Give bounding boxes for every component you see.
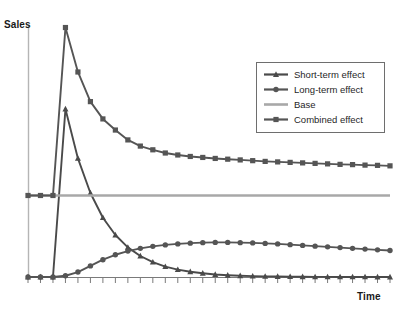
data-point-marker [262, 241, 267, 246]
data-point-marker [275, 159, 280, 164]
data-point-marker [238, 240, 243, 245]
data-point-marker [125, 248, 130, 253]
data-point-marker [138, 246, 143, 251]
legend-item[interactable]: Short-term effect [262, 67, 379, 82]
data-point-marker [63, 273, 68, 278]
data-point-marker [387, 163, 392, 168]
data-point-marker [325, 244, 330, 249]
data-point-marker [337, 245, 342, 250]
data-point-marker [150, 147, 155, 152]
legend-marker-short-term-effect [262, 67, 290, 82]
data-point-marker [75, 69, 80, 74]
legend-label: Base [290, 97, 316, 112]
data-point-marker [113, 252, 118, 257]
data-point-marker [62, 106, 68, 112]
data-point-marker [325, 161, 330, 166]
data-point-marker [113, 127, 118, 132]
data-point-marker [150, 244, 155, 249]
series-line [28, 242, 390, 277]
legend-item[interactable]: Long-term effect [262, 82, 379, 97]
legend-key-glyph [262, 82, 290, 97]
data-point-marker [50, 274, 55, 279]
data-point-marker [387, 248, 392, 253]
data-point-marker [100, 116, 105, 121]
data-point-marker [125, 137, 130, 142]
series-line [28, 109, 390, 277]
legend-label: Long-term effect [290, 82, 363, 97]
data-point-marker [313, 161, 318, 166]
data-point-marker [250, 158, 255, 163]
legend-label: Combined effect [290, 112, 363, 127]
data-point-marker [213, 240, 218, 245]
data-point-marker [312, 243, 317, 248]
legend-label: Short-term effect [290, 67, 365, 82]
data-point-marker [188, 240, 193, 245]
data-point-marker [350, 162, 355, 167]
data-point-marker [38, 193, 43, 198]
legend-marker-base [262, 97, 290, 112]
y-axis-title: Sales [4, 19, 31, 30]
data-point-marker [300, 243, 305, 248]
data-point-marker [25, 193, 30, 198]
sales-effects-line-chart [0, 0, 398, 313]
data-point-marker [138, 143, 143, 148]
data-point-marker [375, 163, 380, 168]
data-point-marker [375, 247, 380, 252]
data-point-marker [100, 257, 105, 262]
x-axis-title: Time [357, 291, 381, 302]
data-point-marker [200, 155, 205, 160]
data-point-marker [200, 240, 205, 245]
data-point-marker [75, 155, 81, 161]
data-point-marker [25, 274, 30, 279]
data-point-marker [263, 159, 268, 164]
data-point-marker [63, 25, 68, 30]
data-point-marker [75, 269, 80, 274]
data-point-marker [300, 160, 305, 165]
data-point-marker [188, 154, 193, 159]
data-point-marker [275, 241, 280, 246]
data-point-marker [163, 150, 168, 155]
data-point-marker [213, 156, 218, 161]
legend-item[interactable]: Base [262, 97, 379, 112]
data-point-marker [50, 193, 55, 198]
data-point-marker [38, 274, 43, 279]
data-point-marker [362, 163, 367, 168]
data-point-marker [225, 240, 230, 245]
data-point-marker [287, 242, 292, 247]
data-point-marker [88, 263, 93, 268]
legend-marker-long-term-effect [262, 82, 290, 97]
data-point-marker [225, 157, 230, 162]
data-point-marker [350, 246, 355, 251]
data-point-marker [163, 242, 168, 247]
legend-key-glyph [262, 67, 290, 82]
data-point-marker [288, 160, 293, 165]
legend-item[interactable]: Combined effect [262, 112, 379, 127]
chart-root: Sales Time Short-term effect Long-term e… [0, 0, 398, 313]
data-point-marker [238, 157, 243, 162]
data-point-marker [88, 99, 93, 104]
data-point-marker [362, 246, 367, 251]
data-point-marker [175, 241, 180, 246]
data-point-marker [175, 152, 180, 157]
legend-key-glyph [262, 112, 290, 127]
legend-key-glyph [262, 97, 290, 112]
chart-legend: Short-term effect Long-term effect Base … [256, 62, 385, 133]
x-axis-ticks [28, 278, 390, 283]
data-point-marker [337, 162, 342, 167]
legend-marker-combined-effect [262, 112, 290, 127]
data-point-marker [273, 117, 278, 122]
data-point-marker [250, 240, 255, 245]
data-point-marker [273, 87, 278, 92]
